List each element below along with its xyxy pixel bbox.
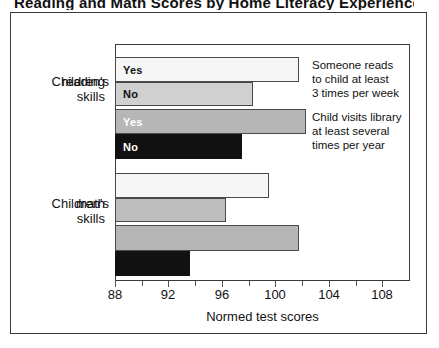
bar-label-reading-library-no: No xyxy=(123,141,138,153)
bar-math-read-yes xyxy=(115,173,269,198)
bar-math-library-no xyxy=(115,251,190,276)
bar-reading-read-yes: Yes xyxy=(115,57,299,82)
group-label-math: Children's math skills xyxy=(5,196,109,226)
annotation-reading-frequency-line-0: Someone reads xyxy=(312,58,422,72)
bar-math-read-no xyxy=(115,198,226,222)
bar-label-reading-read-no: No xyxy=(123,88,138,100)
bar-reading-library-yes: Yes xyxy=(115,109,306,134)
tick-label-96: 96 xyxy=(215,287,229,302)
tick-label-92: 92 xyxy=(161,287,175,302)
tick-98 xyxy=(249,281,250,286)
bar-reading-read-no: No xyxy=(115,82,253,106)
tick-94 xyxy=(195,281,196,286)
tick-label-104: 104 xyxy=(318,287,340,302)
annotation-reading-frequency-line-1: to child at least xyxy=(312,72,422,86)
annotation-library-visits: Child visits library at least several ti… xyxy=(312,110,422,152)
annotation-library-visits-line-1: at least several xyxy=(312,124,422,138)
figure-caption: Reading and Math Scores by Home Literacy… xyxy=(14,0,414,10)
tick-106 xyxy=(356,281,357,286)
bar-reading-library-no: No xyxy=(115,134,242,159)
group-label-reading: Children's reading skills xyxy=(5,74,109,104)
tick-90 xyxy=(142,281,143,286)
tick-label-108: 108 xyxy=(371,287,393,302)
bar-math-library-yes xyxy=(115,225,299,251)
group-label-reading-line-2: skills xyxy=(5,89,105,104)
tick-label-88: 88 xyxy=(108,287,122,302)
annotation-reading-frequency: Someone reads to child at least 3 times … xyxy=(312,58,422,100)
group-label-math-line-1: math xyxy=(5,196,105,211)
annotation-library-visits-line-2: times per year xyxy=(312,138,422,152)
tick-label-100: 100 xyxy=(264,287,286,302)
annotation-reading-frequency-line-2: 3 times per week xyxy=(312,86,422,100)
annotation-library-visits-line-0: Child visits library xyxy=(312,110,422,124)
group-label-math-line-2: skills xyxy=(5,211,105,226)
figure-container: Reading and Math Scores by Home Literacy… xyxy=(0,0,439,348)
tick-102 xyxy=(302,281,303,286)
bar-label-reading-read-yes: Yes xyxy=(123,64,143,76)
group-label-reading-line-1: reading xyxy=(5,74,105,89)
bar-label-reading-library-yes: Yes xyxy=(123,116,143,128)
x-axis-tick-labels: 88 92 96 100 104 108 xyxy=(115,287,410,305)
x-axis-title: Normed test scores xyxy=(115,309,410,324)
